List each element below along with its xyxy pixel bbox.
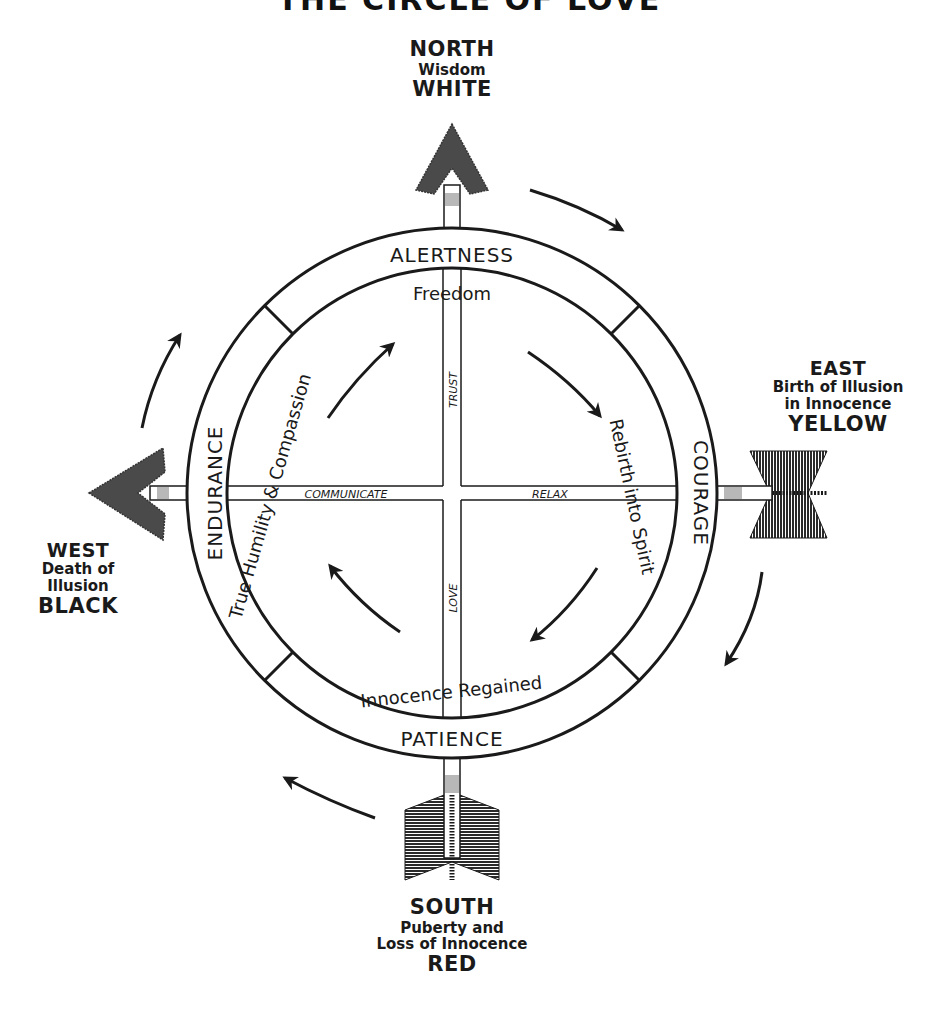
outer-arrow-ne-icon (530, 190, 622, 230)
inner-ring (227, 268, 677, 718)
outer-arrow-nw-icon (142, 335, 180, 428)
cross-label-communicate: COMMUNICATE (305, 488, 388, 501)
outer-label-alertness: ALERTNESS (390, 243, 514, 267)
south-arrow (405, 758, 499, 880)
circle-of-love-diagram: THE CIRCLE OF LOVE NORTH Wisdom WHITE EA… (0, 0, 939, 1011)
east-arrow (716, 451, 828, 538)
outer-label-patience: PATIENCE (400, 727, 503, 751)
inner-label-freedom: Freedom (413, 283, 491, 304)
outer-label-courage: COURAGE (689, 440, 713, 546)
cross-label-relax: RELAX (532, 488, 568, 501)
outer-arrow-sw-icon (285, 778, 375, 818)
west-arrow (89, 448, 188, 540)
north-arrowhead-icon (416, 124, 488, 194)
cross-label-trust: TRUST (447, 371, 460, 408)
north-arrow (416, 124, 488, 228)
wheel-graphic: TRUST LOVE COMMUNICATE RELAX ALERTNESS P… (0, 0, 939, 1011)
outer-label-endurance: ENDURANCE (203, 426, 227, 561)
outer-arrow-se-icon (726, 572, 762, 664)
cross-label-love: LOVE (447, 583, 460, 612)
